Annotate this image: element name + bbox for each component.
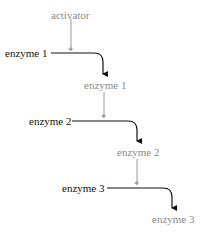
catalysis-marker-1: * [68, 46, 73, 56]
enzyme-1-inactive-label: enzyme 1 [5, 48, 47, 59]
activator-label: activator [51, 10, 89, 21]
enzyme-2-inactive-label: enzyme 2 [29, 116, 71, 127]
enzyme-1-active-label: enzyme 1 [84, 80, 126, 91]
conversion-arrow-1 [51, 53, 103, 74]
enzyme-3-active-label: enzyme 3 [152, 214, 194, 225]
conversion-arrow-3 [107, 188, 172, 208]
enzyme-2-active-label: enzyme 2 [117, 147, 159, 158]
enzyme-3-inactive-label: enzyme 3 [62, 183, 104, 194]
catalysis-marker-3: * [134, 180, 139, 190]
conversion-arrow-2 [72, 121, 137, 141]
catalysis-marker-2: * [101, 113, 106, 123]
